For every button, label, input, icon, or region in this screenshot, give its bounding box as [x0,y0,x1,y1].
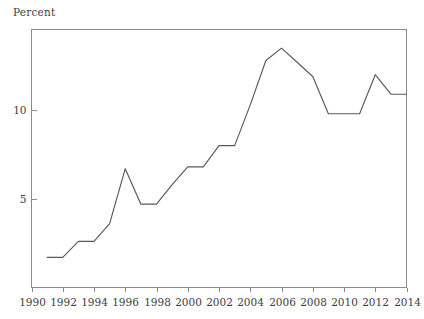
x-tick-label: 1992 [50,296,77,308]
x-tick-label: 1990 [19,296,46,308]
chart-figure: Percent 19901992199419961998200020022004… [0,0,424,319]
x-tick-label: 1998 [144,296,171,308]
line-chart-plot: 1990199219941996199820002002200420062008… [0,0,424,319]
x-tick-label: 1996 [112,296,139,308]
x-tick-label: 2008 [300,296,327,308]
x-axis-ticks [33,288,408,292]
x-tick-label: 2000 [175,296,202,308]
x-tick-label: 2010 [331,296,358,308]
x-tick-label: 2006 [269,296,296,308]
y-axis-tick-labels: 510 [13,104,26,205]
x-tick-label: 2002 [206,296,233,308]
plot-frame [32,30,407,288]
x-tick-label: 2014 [394,296,421,308]
data-series-line [47,48,406,257]
x-tick-label: 2012 [362,296,389,308]
x-tick-label: 1994 [81,296,108,308]
x-axis-tick-labels: 1990199219941996199820002002200420062008… [19,296,421,308]
y-tick-label: 10 [13,104,26,116]
x-tick-label: 2004 [237,296,264,308]
y-tick-label: 5 [20,193,27,205]
y-axis-ticks [32,111,37,200]
